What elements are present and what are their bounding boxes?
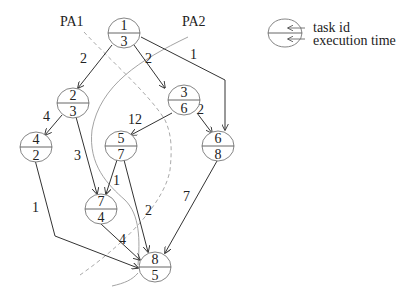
node-7-time: 4 bbox=[98, 210, 105, 225]
edge-weight-3-5: 12 bbox=[128, 112, 142, 127]
node-2: 2 3 bbox=[57, 88, 89, 119]
node-6: 6 8 bbox=[202, 131, 234, 162]
node-7-id: 7 bbox=[98, 194, 105, 209]
node-3: 3 6 bbox=[168, 85, 200, 116]
node-8-id: 8 bbox=[152, 252, 159, 267]
node-8: 8 5 bbox=[139, 252, 171, 283]
node-7: 7 4 bbox=[85, 194, 117, 225]
node-2-id: 2 bbox=[70, 88, 77, 103]
node-3-time: 6 bbox=[181, 101, 188, 116]
node-1: 1 3 bbox=[108, 18, 140, 49]
node-2-time: 3 bbox=[70, 104, 77, 119]
edge-6-8 bbox=[165, 161, 217, 253]
edge-weight-1-3: 2 bbox=[145, 51, 152, 66]
edge-weight-5-8: 2 bbox=[145, 203, 152, 218]
edge-weight-1-2: 2 bbox=[80, 51, 87, 66]
node-1-time: 3 bbox=[121, 34, 128, 49]
node-6-id: 6 bbox=[215, 131, 222, 146]
edge-weight-4-8: 1 bbox=[32, 200, 39, 215]
edge-1-6 bbox=[141, 37, 225, 130]
partition-pa1-label: PA1 bbox=[60, 14, 84, 29]
node-4-id: 4 bbox=[33, 132, 40, 147]
node-1-id: 1 bbox=[121, 18, 128, 33]
node-8-time: 5 bbox=[152, 268, 159, 283]
legend: task id execution time bbox=[268, 19, 396, 48]
edge-weight-2-4: 4 bbox=[43, 109, 50, 124]
partition-pa2-label: PA2 bbox=[182, 14, 206, 29]
partition-pa2-tail bbox=[112, 273, 138, 286]
edge-weight-7-8: 4 bbox=[119, 232, 126, 247]
edge-weight-2-7: 3 bbox=[74, 148, 81, 163]
task-graph-diagram: PA1 PA2 2 2 1 4 3 12 2 1 2 1 4 7 1 3 2 3 bbox=[0, 0, 407, 297]
node-4-time: 2 bbox=[33, 148, 40, 163]
node-3-id: 3 bbox=[181, 85, 188, 100]
node-6-time: 8 bbox=[215, 147, 222, 162]
edge-weight-1-6: 1 bbox=[190, 47, 197, 62]
node-4: 4 2 bbox=[20, 132, 52, 163]
node-5-time: 7 bbox=[118, 147, 125, 162]
legend-execution-time-label: execution time bbox=[313, 33, 396, 48]
node-5-id: 5 bbox=[118, 131, 125, 146]
node-5: 5 7 bbox=[105, 131, 137, 162]
edge-weight-6-8: 7 bbox=[183, 189, 190, 204]
edge-weight-5-7: 1 bbox=[113, 173, 120, 188]
